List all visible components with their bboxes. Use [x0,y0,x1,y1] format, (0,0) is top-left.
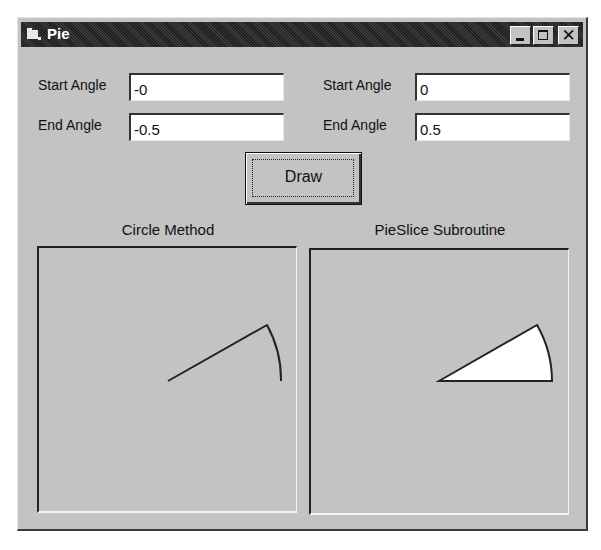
right-start-angle-input[interactable] [415,73,570,101]
right-start-angle-label: Start Angle [323,77,392,93]
right-end-angle-input[interactable] [415,113,570,141]
pieslice-subroutine-canvas[interactable] [309,248,569,515]
left-end-angle-label: End Angle [38,117,102,133]
minimize-button[interactable] [510,26,531,45]
app-folder-icon [27,28,41,40]
draw-button-label: Draw [246,168,361,186]
pie-slice-drawing [311,250,569,515]
minimize-icon [516,38,524,41]
right-end-angle-label: End Angle [323,117,387,133]
left-start-angle-label: Start Angle [38,77,107,93]
maximize-button[interactable] [533,26,554,45]
circle-method-canvas[interactable] [37,246,297,513]
close-button[interactable]: ✕ [558,26,579,45]
pie-window: Pie ✕ Start Angle End Angle Start Angle … [17,17,588,531]
pieslice-subroutine-caption: PieSlice Subroutine [310,221,570,238]
circle-method-caption: Circle Method [38,221,298,238]
maximize-icon [538,30,548,40]
draw-button[interactable]: Draw [245,152,362,205]
circle-method-arc-drawing [39,248,297,513]
close-icon: ✕ [559,26,578,44]
window-title: Pie [47,25,70,43]
title-bar[interactable]: Pie ✕ [21,22,583,47]
left-start-angle-input[interactable] [129,73,284,101]
left-end-angle-input[interactable] [129,113,284,141]
